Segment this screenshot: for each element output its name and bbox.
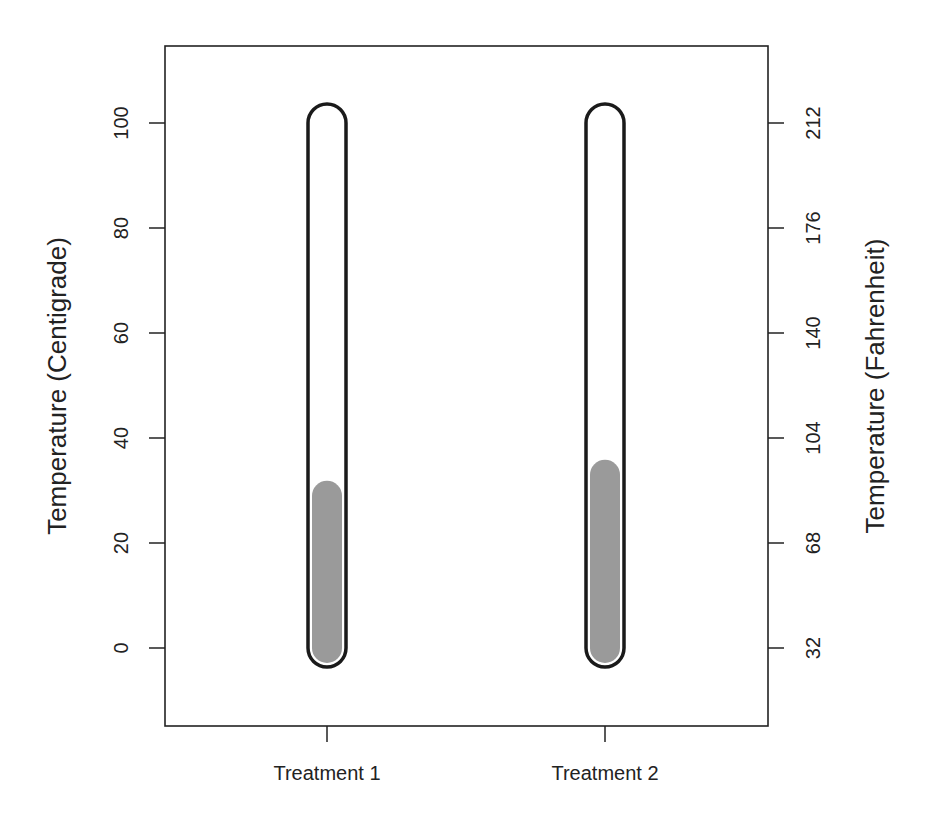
right-tick-label: 212 (802, 106, 824, 139)
x-tick-label: Treatment 1 (273, 762, 380, 784)
x-axis: Treatment 1Treatment 2 (273, 726, 658, 784)
right-axis-label: Temperature (Fahrenheit) (860, 239, 890, 534)
left-tick-label: 100 (110, 106, 132, 139)
left-tick-label: 40 (110, 427, 132, 449)
right-tick-label: 32 (802, 637, 824, 659)
thermometer-chart: 020406080100 3268104140176212 Treatment … (0, 0, 932, 826)
left-axis-label: Temperature (Centigrade) (42, 237, 72, 535)
right-tick-label: 140 (802, 316, 824, 349)
right-tick-label: 68 (802, 532, 824, 554)
right-tick-label: 176 (802, 211, 824, 244)
left-tick-label: 20 (110, 532, 132, 554)
right-y-axis: 3268104140176212 (768, 106, 824, 659)
left-tick-label: 80 (110, 217, 132, 239)
left-y-axis: 020406080100 (110, 106, 165, 653)
plot-frame (165, 46, 768, 726)
left-tick-label: 60 (110, 322, 132, 344)
x-tick-label: Treatment 2 (551, 762, 658, 784)
right-tick-label: 104 (802, 421, 824, 454)
thermometer-fill (312, 481, 342, 663)
left-tick-label: 0 (110, 642, 132, 653)
thermometer-fill (590, 460, 620, 663)
